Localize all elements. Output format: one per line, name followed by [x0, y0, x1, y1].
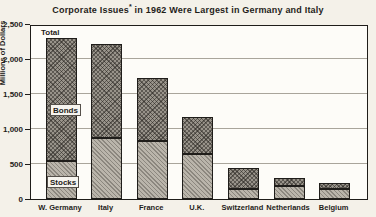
stocks-segment-u-k [183, 153, 212, 198]
chart-title: Corporate Issues* in 1962 Were Largest i… [0, 3, 376, 15]
gridline-1500 [31, 93, 367, 94]
category-label-france: France [139, 203, 164, 212]
chart-title-rest: in 1962 Were Largest in Germany and Ital… [132, 5, 324, 15]
category-label-italy: Italy [98, 203, 113, 212]
gridline-2000 [31, 58, 367, 59]
bar-w-germany [46, 38, 77, 199]
category-label-switzerland: Switzerland [222, 203, 264, 212]
stocks-legend-label: Stocks [47, 176, 79, 188]
y-tick-label: 2,500 [3, 20, 23, 29]
y-tick-label: 500 [10, 160, 23, 169]
bar-france [137, 78, 168, 199]
stocks-segment-france [138, 140, 167, 198]
bar-switzerland [228, 168, 259, 200]
total-annotation: Total [41, 28, 60, 37]
category-label-u-k: U.K. [189, 203, 204, 212]
y-tick-label: 2,000 [3, 55, 23, 64]
bonds-legend-label: Bonds [50, 104, 81, 116]
category-label-netherlands: Netherlands [266, 203, 309, 212]
bar-netherlands [274, 178, 305, 199]
y-tick-label: 0 [19, 195, 23, 204]
bar-belgium [319, 183, 350, 199]
corporate-issues-chart: Corporate Issues* in 1962 Were Largest i… [0, 0, 376, 217]
y-tick-label: 1,000 [3, 125, 23, 134]
y-axis: 05001,0001,5002,0002,500 [0, 25, 30, 200]
bar-italy [91, 44, 122, 199]
plot-area: Total Bonds Stocks [30, 25, 368, 200]
stocks-segment-belgium [320, 188, 349, 198]
bar-u-k [182, 117, 213, 199]
chart-title-text: Corporate Issues [52, 5, 129, 15]
category-label-belgium: Belgium [319, 203, 349, 212]
stocks-segment-italy [92, 137, 121, 198]
stocks-segment-netherlands [275, 185, 304, 198]
y-tick-label: 1,500 [3, 90, 23, 99]
stocks-segment-switzerland [229, 188, 258, 199]
category-label-w-germany: W. Germany [38, 203, 81, 212]
